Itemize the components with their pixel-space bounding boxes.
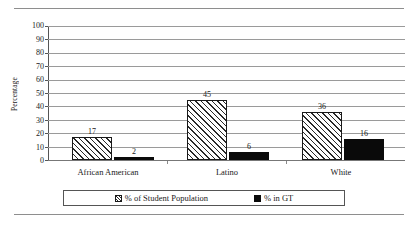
chart-figure: Percentage 100 90 80 70 60 50 40 30 20 1… (0, 0, 418, 226)
x-category-label: Latino (216, 167, 238, 178)
bar-value-label: 45 (203, 90, 211, 99)
legend-entry-in-gt[interactable]: % in GT (254, 194, 293, 203)
bar-value-label: 6 (247, 142, 251, 151)
bar-series2[interactable]: 2 (114, 157, 154, 160)
y-tick-label: 30 (18, 117, 44, 125)
bar-group: 45 6 (187, 26, 282, 160)
bar-value-label: 36 (318, 102, 326, 111)
y-tick-label: 10 (18, 144, 44, 152)
x-tick-mark (286, 161, 287, 164)
bar-value-label: 17 (88, 127, 96, 136)
x-category-label: White (331, 167, 352, 178)
page-rule-bottom (14, 214, 404, 215)
y-tick-label: 0 (18, 157, 44, 165)
y-tick-label: 90 (18, 36, 44, 44)
bar-series1[interactable]: 36 (302, 112, 342, 160)
legend-swatch-hatch-icon (115, 195, 122, 202)
bar-group: 17 2 (72, 26, 167, 160)
x-category-label: African American (77, 167, 138, 178)
legend-entries: % of Student Population % in GT (64, 191, 344, 205)
page-rule-top (14, 8, 404, 9)
y-tick-label: 60 (18, 76, 44, 84)
y-tick-label: 50 (18, 90, 44, 98)
y-tick-label: 20 (18, 130, 44, 138)
bar-series1[interactable]: 45 (187, 100, 227, 160)
y-tick-label: 40 (18, 103, 44, 111)
bar-series2[interactable]: 16 (344, 139, 384, 160)
chart-legend: % of Student Population % in GT (63, 190, 345, 206)
y-tick-label: 80 (18, 49, 44, 57)
bar-value-label: 2 (132, 147, 136, 156)
legend-label: % in GT (264, 194, 293, 203)
bar-series2[interactable]: 6 (229, 152, 269, 160)
bar-group: 36 16 (302, 26, 397, 160)
x-axis-line (48, 160, 405, 161)
bar-value-label: 16 (360, 129, 368, 138)
legend-entry-student-population[interactable]: % of Student Population (115, 194, 208, 203)
legend-label: % of Student Population (125, 194, 208, 203)
y-tick-label: 70 (18, 63, 44, 71)
y-axis-ticks: 100 90 80 70 60 50 40 30 20 10 0 (14, 26, 44, 161)
x-tick-mark (167, 161, 168, 164)
bar-series1[interactable]: 17 (72, 137, 112, 160)
plot-area: 17 2 45 6 36 16 (48, 26, 405, 160)
legend-swatch-solid-icon (254, 195, 261, 202)
y-tick-label: 100 (18, 22, 44, 30)
